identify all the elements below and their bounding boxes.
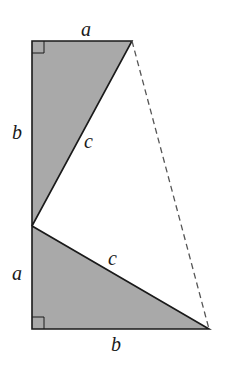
label-lower-a: a <box>12 262 22 284</box>
label-top-a: a <box>81 18 91 40</box>
label-left-b: b <box>12 121 22 143</box>
label-bottom-b: b <box>111 333 121 355</box>
upper-right-triangle <box>32 41 132 226</box>
lower-right-triangle <box>32 226 209 329</box>
label-lower-c: c <box>108 247 117 269</box>
trapezoid-proof-diagram: a b c a c b <box>0 0 230 369</box>
dashed-closing-side <box>132 41 209 329</box>
label-upper-c: c <box>84 130 93 152</box>
